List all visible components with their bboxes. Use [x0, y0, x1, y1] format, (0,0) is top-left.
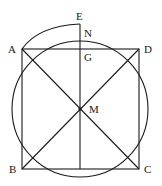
point-m-dot: [78, 107, 81, 110]
geometry-diagram: E N G A D M B C: [0, 0, 162, 186]
label-e: E: [76, 10, 83, 22]
label-m: M: [89, 103, 99, 115]
arc-ae: [22, 24, 80, 49]
label-a: A: [8, 43, 16, 55]
label-g: G: [84, 51, 92, 63]
label-c: C: [144, 163, 151, 175]
label-n: N: [84, 27, 92, 39]
label-d: D: [144, 43, 152, 55]
label-b: B: [9, 163, 16, 175]
